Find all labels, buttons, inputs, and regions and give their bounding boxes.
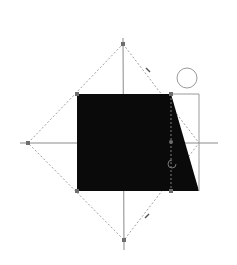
handle-mid-right[interactable] <box>169 140 173 144</box>
handle-left[interactable] <box>26 141 30 145</box>
rotate-handle-icon[interactable] <box>177 68 197 88</box>
edge-tick-top <box>146 68 150 72</box>
handle-top[interactable] <box>121 42 125 46</box>
drawing-canvas[interactable] <box>0 0 237 265</box>
handle-top-left[interactable] <box>75 92 79 96</box>
handle-bottom[interactable] <box>122 238 126 242</box>
handle-bottom-right[interactable] <box>169 189 173 193</box>
handle-bottom-left[interactable] <box>75 189 79 193</box>
filled-trapezoid-shape[interactable] <box>77 94 199 191</box>
edge-tick-bottom <box>145 214 149 218</box>
handle-top-right[interactable] <box>169 92 173 96</box>
